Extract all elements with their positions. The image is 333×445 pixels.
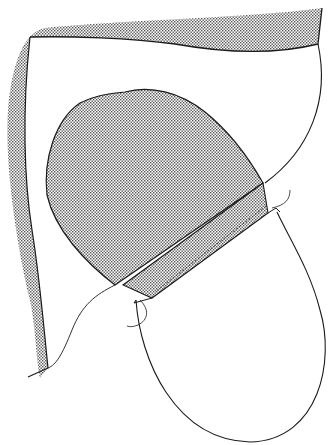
loop-attach-left bbox=[134, 298, 152, 303]
right-wall-line bbox=[265, 44, 321, 183]
illustration-svg bbox=[0, 0, 333, 445]
illustration bbox=[0, 0, 333, 445]
loop-attach-right bbox=[268, 208, 280, 213]
left-thread bbox=[48, 285, 115, 368]
small-thread-right bbox=[272, 190, 290, 208]
stippled-dome bbox=[46, 89, 263, 285]
